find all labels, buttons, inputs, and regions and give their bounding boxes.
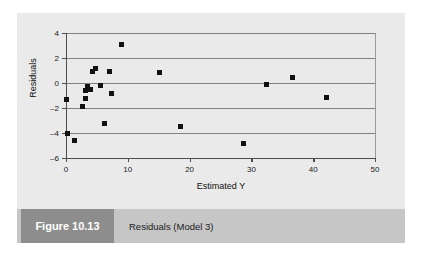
scatter-point [264, 82, 269, 87]
x-tick-mark [190, 158, 191, 162]
plot-frame-right-edge [375, 33, 376, 159]
x-axis-line [66, 158, 376, 159]
x-tick-label-text: 10 [116, 165, 140, 175]
y-tick-label-text: –2 [50, 104, 59, 113]
y-tick-label: –2 [39, 104, 59, 113]
y-axis-label: Residuals [28, 38, 38, 118]
y-tick-label-text: –4 [50, 129, 59, 138]
scatter-point [98, 83, 103, 88]
scatter-point [83, 96, 88, 101]
figure-caption-bar: Figure 10.13 Residuals (Model 3) [17, 209, 405, 243]
scatter-point [178, 124, 183, 129]
x-tick-label-text: 50 [363, 165, 387, 175]
figure-panel: 420–2–4–6 01020304050 Residuals Estimate… [17, 13, 405, 243]
x-tick-label: 30 [239, 165, 263, 175]
y-tick-label-text: 2 [55, 54, 59, 63]
x-tick-label-text: 20 [178, 165, 202, 175]
scatter-point [64, 97, 69, 102]
x-tick-label-text: 0 [54, 165, 78, 175]
figure-number-label: Figure 10.13 [35, 220, 99, 232]
x-tick-label: 20 [178, 165, 202, 175]
x-tick-label: 40 [301, 165, 325, 175]
figure-container: 420–2–4–6 01020304050 Residuals Estimate… [0, 0, 422, 256]
y-tick-label: –4 [39, 129, 59, 138]
y-tick-label: –6 [39, 154, 59, 163]
scatter-point [93, 66, 98, 71]
y-tick-label: 4 [39, 29, 59, 38]
scatter-point [109, 91, 114, 96]
scatter-point [157, 70, 162, 75]
scatter-point [72, 138, 77, 143]
x-tick-label: 0 [54, 165, 78, 175]
scatter-point [324, 95, 329, 100]
scatter-point [290, 75, 295, 80]
x-tick-mark [66, 158, 67, 162]
scatter-point [107, 69, 112, 74]
x-tick-mark [251, 158, 252, 162]
y-tick-label-text: 4 [55, 29, 59, 38]
figure-number-badge: Figure 10.13 [21, 209, 114, 243]
y-tick-label-text: 0 [55, 79, 59, 88]
y-tick-label: 0 [39, 79, 59, 88]
y-tick-label: 2 [39, 54, 59, 63]
x-tick-mark [313, 158, 314, 162]
x-tick-label-text: 30 [239, 165, 263, 175]
x-tick-label: 10 [116, 165, 140, 175]
y-tick-label-text: –6 [50, 154, 59, 163]
scatter-point [65, 131, 70, 136]
scatter-point [88, 87, 93, 92]
x-tick-mark [375, 158, 376, 162]
chart-plot-area: 420–2–4–6 01020304050 Residuals Estimate… [17, 13, 405, 203]
x-tick-label-text: 40 [301, 165, 325, 175]
x-tick-label: 50 [363, 165, 387, 175]
scatter-point [119, 42, 124, 47]
scatter-point [241, 141, 246, 146]
x-tick-mark [128, 158, 129, 162]
figure-caption-label: Residuals (Model 3) [129, 209, 213, 243]
x-axis-label: Estimated Y [66, 181, 376, 191]
scatter-point [80, 104, 85, 109]
scatter-points-group [66, 33, 375, 158]
scatter-point [102, 121, 107, 126]
